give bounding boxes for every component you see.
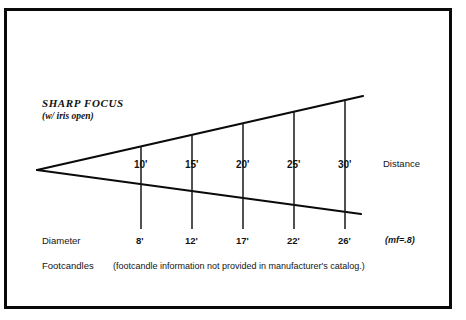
diameter-row-label: Diameter: [42, 236, 81, 247]
distance-label-10: 10': [134, 159, 148, 171]
beam-lower-edge-line: [37, 170, 361, 214]
distance-label-20: 20': [236, 159, 250, 171]
sharp-focus-title: SHARP FOCUS: [42, 97, 124, 110]
distance-label-30: 30': [338, 159, 352, 171]
sharp-focus-label-block: SHARP FOCUS (w/ iris open): [42, 97, 124, 122]
diameter-label-8: 8': [136, 236, 144, 247]
footcandles-row-label: Footcandles: [42, 261, 94, 272]
sharp-focus-subtitle: (w/ iris open): [42, 111, 124, 122]
multiplying-factor-note: (mf=.8): [385, 235, 415, 245]
diameter-label-22: 22': [287, 236, 300, 247]
diameter-label-17: 17': [236, 236, 249, 247]
distance-label-15: 15': [185, 159, 199, 171]
figure-canvas: SHARP FOCUS (w/ iris open) 10' 15' 20' 2…: [0, 0, 466, 320]
diameter-label-12: 12': [185, 236, 198, 247]
distance-axis-label: Distance: [383, 159, 420, 170]
footcandles-note: (footcandle information not provided in …: [113, 261, 365, 271]
diameter-label-26: 26': [338, 236, 351, 247]
distance-label-25: 25': [287, 159, 301, 171]
